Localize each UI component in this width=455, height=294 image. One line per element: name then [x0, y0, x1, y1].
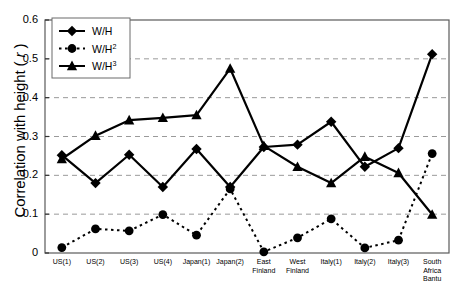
data-point	[192, 231, 201, 240]
series-w-h2	[57, 149, 436, 256]
data-point	[57, 243, 66, 252]
gridlines	[45, 59, 449, 214]
legend-marker	[68, 44, 77, 53]
series-layer	[57, 49, 438, 256]
data-point	[259, 140, 269, 150]
data-point	[327, 214, 336, 223]
y-tick-label: 0.4	[8, 91, 38, 103]
y-tick-label: 0.6	[8, 13, 38, 25]
data-point	[428, 149, 437, 158]
y-tick-label: 0.1	[8, 207, 38, 219]
data-point	[394, 236, 403, 245]
data-point	[393, 143, 403, 153]
data-point	[292, 161, 302, 171]
chart-legend: W/HW/H2W/H3	[52, 18, 130, 78]
x-tick-label: SouthAfricaBantu	[410, 258, 454, 284]
legend-box	[52, 18, 130, 78]
data-point	[125, 226, 134, 235]
y-tick-label: 0.5	[8, 52, 38, 64]
data-point	[158, 210, 167, 219]
y-tick-label: 0.3	[8, 130, 38, 142]
series-w-h3	[57, 63, 438, 219]
y-tick-label: 0	[8, 246, 38, 258]
data-point	[259, 247, 268, 256]
data-point	[91, 225, 100, 234]
data-point	[293, 233, 302, 242]
data-point	[360, 244, 369, 253]
chart-canvas: W/HW/H2W/H3	[0, 0, 455, 294]
data-point	[427, 49, 437, 59]
data-point	[360, 151, 370, 161]
series-line	[62, 69, 432, 215]
y-tick-label: 0.2	[8, 168, 38, 180]
data-point	[226, 185, 235, 194]
chart-figure: Correlation with height ( r ) W/HW/H2W/H…	[0, 0, 455, 294]
legend-label: W/H	[92, 25, 112, 37]
data-point	[225, 63, 235, 73]
